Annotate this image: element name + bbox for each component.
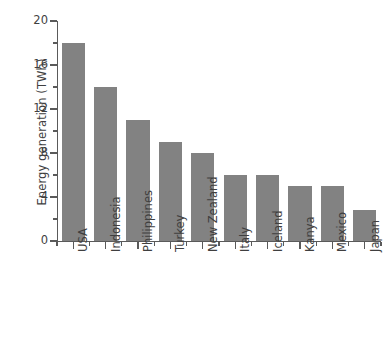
y-tick-minor [53, 130, 57, 131]
x-tick-label: Indonesia [111, 196, 123, 252]
x-tick-major [73, 242, 74, 249]
y-tick-label: 12 [8, 103, 48, 115]
x-tick-major [235, 242, 236, 249]
y-axis-title: Energy generation (TWh) [35, 22, 49, 242]
x-tick-label: New Zealand [208, 176, 220, 252]
y-tick-label: 0 [8, 235, 48, 247]
y-tick-label: 4 [8, 191, 48, 203]
x-tick-label: Mexico [337, 212, 349, 252]
x-tick-major [267, 242, 268, 249]
x-tick-major [299, 242, 300, 249]
y-tick-label: 16 [8, 59, 48, 71]
x-tick-major [332, 242, 333, 249]
x-tick-major [137, 242, 138, 249]
y-tick-major [50, 64, 57, 65]
y-tick-label: 20 [8, 15, 48, 27]
clipped-bottom-text [150, 344, 260, 348]
x-tick-label: Iceland [273, 210, 285, 252]
x-tick-label: Turkey [175, 215, 187, 252]
y-tick-major [50, 108, 57, 109]
y-tick-minor [53, 218, 57, 219]
bar [62, 43, 85, 241]
x-tick-label: Japan [370, 220, 382, 252]
bar-chart-figure: Energy generation (TWh) 048121620 USAInd… [0, 0, 385, 353]
x-tick-label: USA [78, 228, 90, 252]
x-tick-label: Italy [240, 227, 252, 252]
x-tick-major [105, 242, 106, 249]
y-tick-minor [53, 174, 57, 175]
x-tick-major [364, 242, 365, 249]
y-tick-minor [53, 42, 57, 43]
x-tick-label: Philippines [143, 190, 155, 252]
y-axis-line [57, 21, 58, 242]
x-tick-label: Kanya [305, 216, 317, 252]
x-tick-major [202, 242, 203, 249]
y-tick-label: 8 [8, 147, 48, 159]
y-tick-major [50, 20, 57, 21]
y-tick-major [50, 196, 57, 197]
y-tick-minor [53, 86, 57, 87]
x-tick-minor [56, 242, 57, 246]
x-tick-major [170, 242, 171, 249]
y-tick-major [50, 152, 57, 153]
